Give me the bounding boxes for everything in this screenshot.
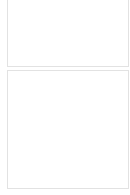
- top-panel: [7, 0, 129, 67]
- bottom-panel: [7, 70, 129, 189]
